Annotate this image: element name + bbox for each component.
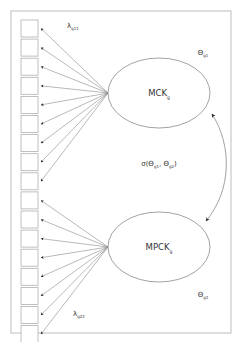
mck-factor-label: MCKg: [148, 88, 170, 100]
indicator-box: [21, 173, 38, 190]
mck-variance-label: Θg1: [198, 49, 209, 58]
loading-arrows: [41, 29, 108, 335]
indicator-box: [21, 39, 38, 56]
covariance-label: σ(Θg1, Θg2): [141, 160, 177, 169]
loading-arrow: [41, 93, 108, 181]
indicator-box: [21, 230, 38, 247]
covariance-arrow: [206, 114, 226, 221]
indicator-box: [21, 116, 38, 133]
indicator-box: [21, 154, 38, 171]
loading-arrow: [41, 247, 108, 277]
indicator-box: [21, 20, 38, 37]
indicator-boxes: [21, 20, 38, 342]
indicator-box: [21, 77, 38, 94]
loading-label: λg11: [67, 22, 79, 31]
indicator-box: [21, 268, 38, 285]
loading-label: λg22: [73, 310, 85, 319]
figure-frame: [11, 11, 231, 333]
indicator-box: [21, 307, 38, 324]
loading-arrow: [41, 247, 108, 296]
loading-arrow: [41, 247, 108, 334]
loading-arrow: [41, 93, 108, 124]
loading-arrow: [41, 247, 108, 258]
sem-diagram: MCKgΘg1MPCKgΘg2λg11λg22 σ(Θg1, Θg2): [0, 0, 245, 342]
loading-arrow: [41, 247, 108, 315]
indicator-box: [21, 287, 38, 304]
indicator-box: [21, 58, 38, 75]
loading-arrow: [41, 29, 108, 94]
mpck-variance-label: Θg2: [198, 291, 209, 300]
loading-arrow: [41, 86, 108, 93]
mpck-factor-label: MPCKg: [146, 242, 173, 254]
indicator-box: [21, 326, 38, 342]
indicator-box: [21, 211, 38, 228]
indicator-box: [21, 135, 38, 152]
indicator-box: [21, 192, 38, 209]
indicator-box: [21, 249, 38, 266]
loading-arrow: [41, 48, 108, 93]
indicator-box: [21, 96, 38, 113]
loading-arrow: [41, 93, 108, 143]
